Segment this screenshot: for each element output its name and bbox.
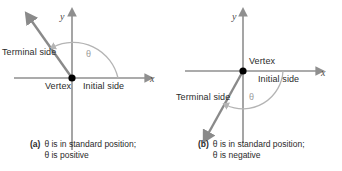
angle-arc (53, 42, 118, 78)
vertex-label: Vertex (45, 82, 71, 91)
terminal-side-ray (208, 71, 243, 134)
caption-a: (a)θ is in standard position;θ is positi… (30, 139, 170, 160)
caption-b-line1: θ is in standard position; (213, 139, 305, 149)
caption-a-tag: (a) (30, 139, 40, 150)
caption-a-line1: θ is in standard position; (44, 139, 136, 149)
angle-theta-label: θ (86, 50, 91, 59)
y-axis-label: y (60, 12, 64, 22)
terminal-side-label: Terminal side (2, 48, 56, 57)
angle-standard-position-figure: y x Vertex Initial side Terminal side θ … (0, 0, 342, 171)
terminal-side-label: Terminal side (176, 93, 230, 102)
caption-b-tag: (b) (198, 139, 209, 150)
caption-b-line2: θ is negative (213, 150, 261, 160)
vertex-label: Vertex (249, 57, 275, 66)
x-axis-label: x (150, 74, 154, 84)
initial-side-label: Initial side (83, 82, 124, 91)
initial-side-label: Initial side (258, 75, 299, 84)
panel-a: y x Vertex Initial side Terminal side θ … (0, 0, 171, 171)
x-axis-label: x (321, 68, 325, 78)
caption-b: (b)θ is in standard position;θ is negati… (198, 139, 342, 160)
vertex-point (239, 67, 246, 74)
angle-theta-label: θ (249, 93, 254, 102)
panel-b: y x Vertex Initial side Terminal side θ … (171, 0, 342, 171)
caption-a-line2: θ is positive (44, 150, 88, 160)
y-axis-label: y (232, 12, 236, 22)
